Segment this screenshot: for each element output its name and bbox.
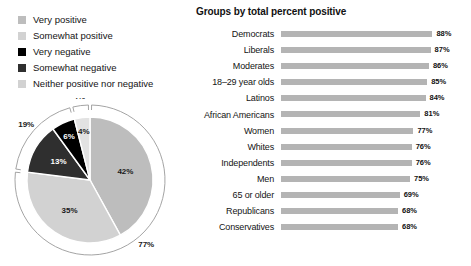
bar-value-label: 87%: [435, 45, 450, 54]
bar-category-label: Democrats: [196, 29, 281, 39]
bar-chart-row: Liberals87%: [196, 42, 468, 58]
bar-value-label: 86%: [433, 61, 448, 70]
bar-fill: [281, 176, 410, 182]
bar-chart-panel: Groups by total percent positive Democra…: [196, 6, 468, 262]
legend-item: Somewhat positive: [18, 28, 193, 44]
bar-fill: [281, 144, 412, 150]
pie-annotation-label: 77%: [138, 240, 154, 249]
bar-fill: [281, 224, 398, 230]
bar-track: 81%: [281, 106, 468, 122]
pie-outer-arc-tick: [73, 107, 74, 112]
pie-slice-value-label: 6%: [63, 132, 75, 141]
bar-chart-row: 65 or older69%: [196, 187, 468, 203]
bar-chart-title: Groups by total percent positive: [196, 6, 468, 17]
pie-slice-value-label: 13%: [50, 157, 66, 166]
legend-swatch-somewhat-positive-icon: [18, 32, 26, 40]
legend-item-label: Neither positive nor negative: [33, 79, 153, 89]
bar-fill: [281, 128, 413, 134]
bar-fill: [281, 47, 431, 53]
bar-track: 68%: [281, 219, 468, 235]
bar-track: 76%: [281, 139, 468, 155]
bar-value-label: 81%: [424, 109, 439, 118]
bar-category-label: African Americans: [196, 110, 281, 120]
bar-chart-row: Whites76%: [196, 139, 468, 155]
bar-fill: [281, 208, 398, 214]
pie-chart: 42%35%13%6%4% 77%19%4%: [2, 98, 184, 264]
bar-chart-row: African Americans81%: [196, 106, 468, 122]
legend-swatch-very-positive-icon: [18, 16, 26, 24]
bar-category-label: Men: [196, 174, 281, 184]
pie-outer-arc: [73, 105, 89, 107]
bar-fill: [281, 63, 429, 69]
bar-fill: [281, 31, 432, 37]
bar-chart-row: Women77%: [196, 123, 468, 139]
bar-fill: [281, 111, 420, 117]
bar-track: 68%: [281, 203, 468, 219]
bar-chart-row: Republicans68%: [196, 203, 468, 219]
infographic-root: Very positive Somewhat positive Very neg…: [0, 0, 471, 266]
bar-track: 87%: [281, 42, 468, 58]
bar-fill: [281, 192, 400, 198]
bar-chart-row: 18–29 year olds85%: [196, 74, 468, 90]
bar-chart-row: Moderates86%: [196, 58, 468, 74]
bar-chart-row: Conservatives68%: [196, 219, 468, 235]
bar-value-label: 85%: [431, 77, 446, 86]
pie-outer-arc-tick: [15, 172, 20, 173]
bar-category-label: 65 or older: [196, 190, 281, 200]
legend-item-label: Somewhat positive: [33, 31, 113, 41]
bar-track: 88%: [281, 26, 468, 42]
legend-item: Very positive: [18, 12, 193, 28]
bar-category-label: 18–29 year olds: [196, 77, 281, 87]
bar-value-label: 76%: [416, 142, 431, 151]
legend-swatch-very-negative-icon: [18, 48, 26, 56]
bar-value-label: 68%: [402, 222, 417, 231]
bar-chart-row: Men75%: [196, 171, 468, 187]
bar-category-label: Conservatives: [196, 222, 281, 232]
bar-value-label: 69%: [404, 190, 419, 199]
bar-track: 77%: [281, 123, 468, 139]
legend-item: Somewhat negative: [18, 60, 193, 76]
legend-swatch-somewhat-negative-icon: [18, 64, 26, 72]
bar-chart-row: Democrats88%: [196, 26, 468, 42]
bar-value-label: 88%: [436, 29, 451, 38]
pie-annotation-label: 19%: [18, 120, 34, 129]
bar-category-label: Independents: [196, 158, 281, 168]
bar-category-label: Latinos: [196, 93, 281, 103]
bar-value-label: 76%: [416, 158, 431, 167]
bar-category-label: Women: [196, 126, 281, 136]
pie-slice-group: [27, 117, 153, 243]
bar-fill: [281, 160, 412, 166]
bar-chart-rows: Democrats88%Liberals87%Moderates86%18–29…: [196, 26, 468, 235]
bar-value-label: 77%: [417, 126, 432, 135]
legend-item-label: Very positive: [33, 15, 87, 25]
bar-track: 76%: [281, 155, 468, 171]
pie-chart-svg: 42%35%13%6%4% 77%19%4%: [2, 98, 184, 264]
pie-slice-value-label: 42%: [117, 167, 133, 176]
bar-category-label: Liberals: [196, 45, 281, 55]
bar-track: 85%: [281, 74, 468, 90]
legend-item: Very negative: [18, 44, 193, 60]
pie-slice-value-label: 4%: [78, 127, 90, 136]
bar-track: 86%: [281, 58, 468, 74]
bar-fill: [281, 95, 426, 101]
bar-category-label: Whites: [196, 142, 281, 152]
bar-track: 75%: [281, 171, 468, 187]
bar-fill: [281, 79, 427, 85]
pie-outer-arc-tick: [70, 108, 71, 113]
legend-swatch-neither-icon: [18, 80, 26, 88]
bar-category-label: Republicans: [196, 206, 281, 216]
bar-chart-row: Latinos84%: [196, 90, 468, 106]
bar-value-label: 75%: [414, 174, 429, 183]
bar-value-label: 84%: [430, 93, 445, 102]
legend-item-label: Somewhat negative: [33, 63, 116, 73]
pie-legend: Very positive Somewhat positive Very neg…: [18, 12, 193, 92]
legend-item-label: Very negative: [33, 47, 91, 57]
legend-item: Neither positive nor negative: [18, 76, 193, 92]
pie-slice-value-label: 35%: [61, 206, 77, 215]
pie-annotation-label: 4%: [74, 98, 86, 101]
bar-category-label: Moderates: [196, 61, 281, 71]
bar-track: 84%: [281, 90, 468, 106]
bar-value-label: 68%: [402, 206, 417, 215]
bar-chart-row: Independents76%: [196, 155, 468, 171]
bar-track: 69%: [281, 187, 468, 203]
